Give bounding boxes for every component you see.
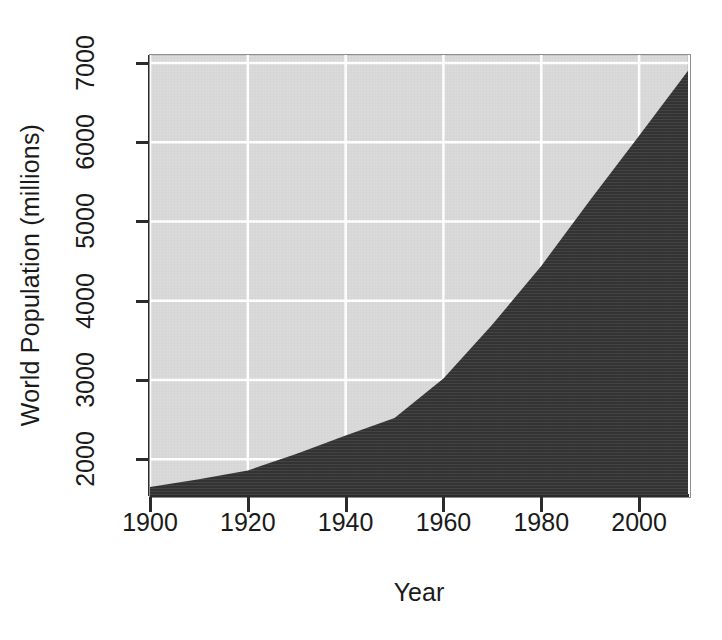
x-tick-mark bbox=[247, 497, 250, 512]
x-axis-title: Year bbox=[150, 578, 688, 607]
x-tick-label: 2000 bbox=[589, 508, 689, 537]
x-tick-label: 1980 bbox=[491, 508, 591, 537]
y-tick-label: 6000 bbox=[72, 97, 98, 187]
y-tick-label: 5000 bbox=[72, 176, 98, 266]
y-tick-label: 4000 bbox=[72, 256, 98, 346]
x-tick-label: 1920 bbox=[198, 508, 298, 537]
y-tick-label: 2000 bbox=[72, 414, 98, 504]
x-tick-label: 1900 bbox=[100, 508, 200, 537]
y-axis-title: World Population (millions) bbox=[8, 55, 52, 495]
plot-panel bbox=[150, 55, 688, 495]
x-tick-label: 1940 bbox=[296, 508, 396, 537]
x-tick-mark bbox=[638, 497, 641, 512]
chart-figure: World Population (millions) 200030004000… bbox=[0, 0, 722, 640]
population-area-series bbox=[150, 71, 688, 495]
y-tick-label: 7000 bbox=[72, 18, 98, 108]
y-tick-label: 3000 bbox=[72, 335, 98, 425]
x-tick-mark bbox=[345, 497, 348, 512]
x-tick-mark bbox=[540, 497, 543, 512]
x-tick-label: 1960 bbox=[393, 508, 493, 537]
x-tick-mark bbox=[149, 497, 152, 512]
x-tick-mark bbox=[442, 497, 445, 512]
plot-area-svg bbox=[150, 55, 688, 495]
